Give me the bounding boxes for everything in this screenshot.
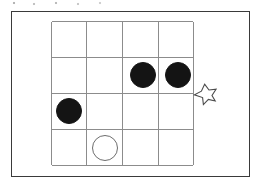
board-grid[interactable]: [51, 21, 194, 166]
stone-black-r2c3[interactable]: [130, 62, 156, 88]
grid-lines: [51, 21, 194, 166]
stone-white-r4c2[interactable]: [92, 135, 118, 161]
stone-black-r3c1[interactable]: [56, 98, 82, 124]
figure-root: [0, 0, 262, 188]
star-marker[interactable]: [193, 83, 217, 106]
stone-black-r2c4[interactable]: [165, 62, 191, 88]
top-edge-artifacts: [8, 1, 254, 7]
star-icon: [193, 83, 217, 106]
